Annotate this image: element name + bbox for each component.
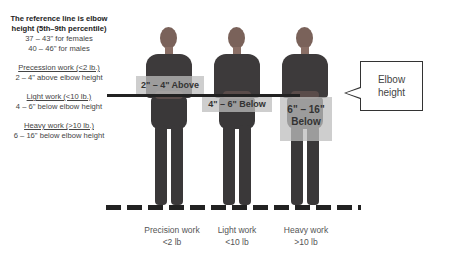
figure-light — [206, 25, 268, 210]
caption-light-weight: <10 lb — [197, 236, 277, 248]
caption-light: Light work <10 lb — [197, 224, 277, 248]
figure-precision — [138, 25, 200, 210]
legend: The reference line is elbow height (5th–… — [0, 14, 118, 141]
legend-title-2: height (5th–9th percentile) — [0, 24, 118, 34]
legend-heavy-detail: 6 – 16" below elbow height — [0, 131, 118, 141]
legend-heavy-heading: Heavy work (>10 lb.) — [0, 121, 118, 131]
caption-heavy-title: Heavy work — [266, 224, 346, 236]
floor-dashed-line — [106, 205, 361, 210]
caption-heavy-weight: >10 lb — [266, 236, 346, 248]
legend-males: 40 – 46" for males — [0, 44, 118, 54]
legend-females: 37 – 43" for females — [0, 34, 118, 44]
heavy-range-line2: Below — [280, 116, 332, 128]
heavy-range-box: 6" – 16" Below — [280, 97, 332, 141]
legend-light-heading: Light work (<10 lb.) — [0, 92, 118, 102]
legend-precision-heading: Precession work (<2 lb.) — [0, 63, 118, 73]
precision-range-box: 2" – 4" Above — [136, 76, 204, 94]
heavy-range-line1: 6" – 16" — [280, 104, 332, 116]
caption-light-title: Light work — [197, 224, 277, 236]
callout-line2: height — [361, 86, 422, 99]
legend-precision-detail: 2 – 4" above elbow height — [0, 73, 118, 83]
light-range-box: 4" – 6" Below — [202, 97, 272, 112]
caption-heavy: Heavy work >10 lb — [266, 224, 346, 248]
callout-line1: Elbow — [361, 73, 422, 86]
legend-light-detail: 4 – 6" below elbow height — [0, 102, 118, 112]
legend-title-1: The reference line is elbow — [0, 14, 118, 24]
elbow-height-callout: Elbow height — [360, 61, 423, 111]
